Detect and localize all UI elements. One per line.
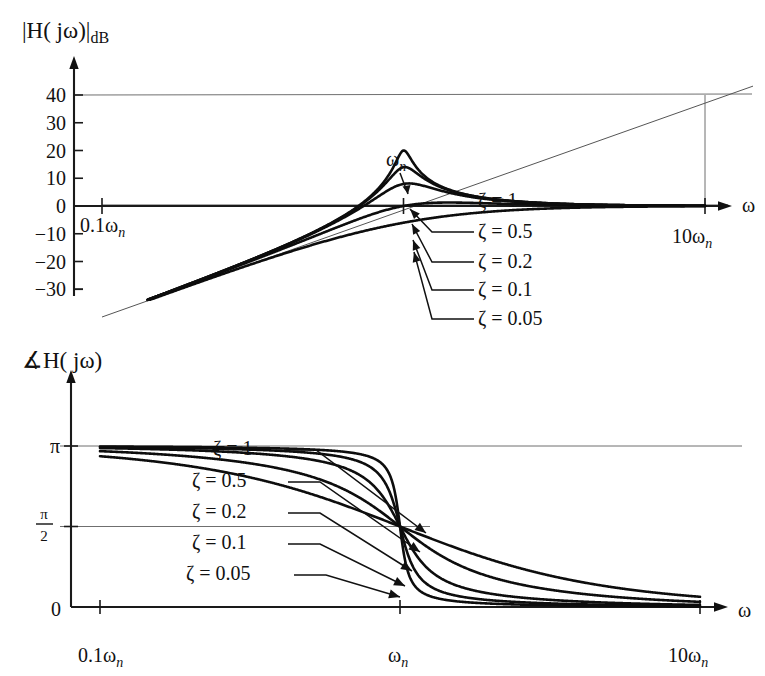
phase-zeta-leader-4: [294, 575, 400, 597]
phase-ytick-pi: π: [50, 435, 60, 457]
phase-ytick-pi-over-2-numerator: π: [40, 506, 48, 522]
phase-x-axis-label: ω: [738, 599, 751, 621]
magnitude-ytick-20: 20: [46, 140, 66, 162]
phase-title-main: H( jω): [43, 348, 102, 373]
phase-plot-title: ∡H( jω): [22, 348, 102, 373]
magnitude-plot-title: |H( jω)|dB: [22, 18, 109, 46]
magnitude-ytick-10: 10: [46, 167, 66, 189]
magnitude-ytick-0: 0: [56, 195, 66, 217]
magnitude-title-main: |H( jω)|: [22, 18, 90, 43]
magnitude-ytick-30: 30: [46, 112, 66, 134]
magnitude-plot-group: |H( jω)|dB 403020100−10−20−30 0.1ωn 10ωn…: [22, 18, 755, 330]
phase-xtick-wn: ωn: [388, 644, 408, 670]
magnitude-ytick-neg30: −30: [35, 278, 66, 300]
magnitude-y-tick-labels: 403020100−10−20−30: [35, 84, 66, 300]
phase-ytick-0: 0: [51, 598, 61, 620]
phase-ytick-pi-over-2-denominator: 2: [40, 528, 48, 544]
phase-xtick-0p1wn: 0.1ωn: [78, 644, 123, 670]
phase-ytick-pi-over-2: π 2: [36, 506, 53, 544]
phase-zeta-arrow-0: [415, 523, 426, 533]
magnitude-xtick-10wn: 10ωn: [672, 225, 712, 251]
phase-plot-group: ∡H( jω) π π 2 0 0.1ωn ωn 10ωn: [22, 348, 751, 670]
magnitude-zeta-arrow-3: [413, 240, 420, 251]
magnitude-curve-zeta-0.2: [148, 183, 705, 299]
magnitude-title-sub: dB: [90, 29, 109, 46]
phase-zeta-leader-3: [288, 544, 405, 586]
phase-zeta-label-4: ζ = 0.05: [186, 562, 251, 585]
phase-zeta-label-2: ζ = 0.2: [192, 500, 247, 523]
phase-zeta-arrow-4: [388, 590, 400, 599]
bode-plot-figure: |H( jω)|dB 403020100−10−20−30 0.1ωn 10ωn…: [0, 0, 765, 676]
magnitude-zeta-label-0: ζ = 1: [478, 189, 518, 212]
magnitude-xtick-0p1wn: 0.1ωn: [80, 214, 125, 240]
magnitude-zeta-label-1: ζ = 0.5: [478, 220, 533, 243]
phase-zeta-label-0: ζ = 1: [213, 437, 253, 460]
phase-zeta-label-1: ζ = 0.5: [192, 469, 247, 492]
magnitude-zeta-leader-2: [412, 224, 474, 262]
magnitude-ytick-neg20: −20: [35, 251, 66, 273]
magnitude-zeta-leaders: [410, 209, 474, 319]
magnitude-zeta-label-4: ζ = 0.05: [478, 307, 543, 330]
magnitude-zeta-arrow-2: [412, 224, 420, 235]
phase-xtick-10wn: 10ωn: [668, 644, 708, 670]
magnitude-ytick-neg10: −10: [35, 223, 66, 245]
phase-zeta-label-3: ζ = 0.1: [192, 531, 247, 554]
magnitude-ytick-40: 40: [46, 84, 66, 106]
magnitude-zeta-label-3: ζ = 0.1: [478, 278, 533, 301]
magnitude-x-axis-label: ω: [742, 194, 755, 216]
magnitude-zeta-label-2: ζ = 0.2: [478, 250, 533, 273]
angle-icon: ∡: [22, 348, 43, 373]
magnitude-gridlines: [74, 94, 752, 206]
bode-plot-svg: |H( jω)|dB 403020100−10−20−30 0.1ωn 10ωn…: [0, 0, 765, 676]
